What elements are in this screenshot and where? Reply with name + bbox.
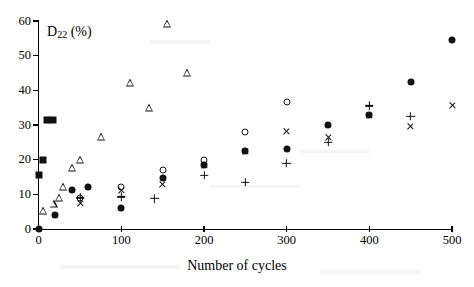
data-point-filled-circle — [159, 175, 166, 182]
data-point-plus — [150, 194, 159, 203]
data-point-cross — [324, 133, 333, 142]
data-point-filled-circle — [68, 186, 75, 193]
data-point-filled-circle — [366, 111, 373, 118]
data-point-open-circle — [159, 167, 166, 174]
data-point-filled-circle — [449, 37, 456, 44]
data-point-open-triangle — [50, 199, 58, 207]
data-point-plus — [76, 193, 85, 202]
data-point-open-triangle — [39, 206, 47, 214]
data-point-cross — [365, 111, 374, 120]
data-point-open-triangle — [55, 193, 63, 201]
data-point-cross — [241, 147, 250, 156]
data-point-cross — [282, 127, 291, 136]
data-point-filled-circle — [283, 146, 290, 153]
data-point-open-circle — [283, 99, 290, 106]
data-point-cross — [117, 186, 126, 195]
data-point-plus — [241, 178, 250, 187]
data-point-open-circle — [201, 156, 208, 163]
data-point-open-triangle — [126, 79, 134, 87]
data-point-cross — [200, 161, 209, 170]
data-point-plus — [200, 171, 209, 180]
data-point-open-circle — [77, 195, 84, 202]
data-point-open-triangle — [163, 20, 171, 28]
data-point-filled-circle — [201, 161, 208, 168]
data-point-plus — [282, 159, 291, 168]
data-point-filled-circle — [242, 148, 249, 155]
data-point-open-circle — [118, 184, 125, 191]
data-markers-layer — [0, 0, 474, 287]
data-point-plus — [324, 138, 333, 147]
scatter-plot-figure: D22 (%) Number of cycles 010203040506001… — [0, 0, 474, 287]
data-point-open-triangle — [59, 183, 67, 191]
data-point-open-circle — [242, 128, 249, 135]
data-point-filled-square — [35, 172, 42, 179]
data-point-plus — [406, 112, 415, 121]
data-point-cross — [406, 122, 415, 131]
data-point-filled-circle — [35, 226, 42, 233]
data-point-filled-circle — [407, 78, 414, 85]
data-point-filled-circle — [52, 212, 59, 219]
data-point-plus — [365, 101, 374, 110]
data-point-open-triangle — [183, 69, 191, 77]
data-point-cross — [76, 199, 85, 208]
data-point-filled-square — [39, 156, 46, 163]
data-point-open-triangle — [76, 155, 84, 163]
data-point-filled-square — [49, 117, 56, 124]
data-point-open-triangle — [68, 164, 76, 172]
data-point-filled-circle — [325, 122, 332, 129]
data-point-plus — [117, 192, 126, 201]
data-point-cross — [448, 101, 457, 110]
data-point-filled-circle — [118, 204, 125, 211]
data-point-open-triangle — [97, 133, 105, 141]
data-point-cross — [158, 180, 167, 189]
data-point-filled-circle — [85, 183, 92, 190]
data-point-filled-square — [43, 116, 50, 123]
data-point-open-triangle — [145, 103, 153, 111]
